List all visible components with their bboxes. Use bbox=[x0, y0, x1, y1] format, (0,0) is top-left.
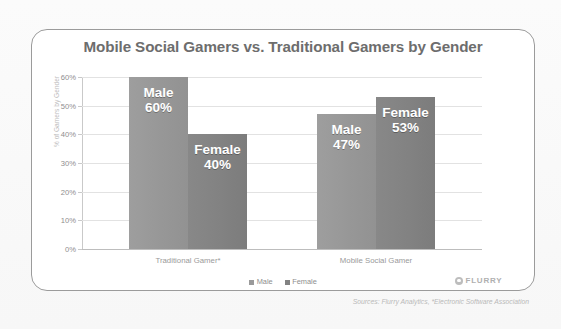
x-axis-category-label: Mobile Social Gamer bbox=[306, 256, 446, 265]
bar-female-1[interactable]: Female40% bbox=[188, 134, 247, 249]
bar-data-label: Female40% bbox=[188, 142, 247, 172]
y-axis-tick bbox=[78, 220, 82, 221]
bar-data-label: Male47% bbox=[317, 122, 376, 152]
y-axis-tick bbox=[78, 106, 82, 107]
flurry-circle-icon bbox=[455, 277, 463, 285]
bar-label-series: Female bbox=[188, 142, 247, 157]
y-axis-tick bbox=[78, 134, 82, 135]
sources-footnote: Sources: Flurry Analytics, *Electronic S… bbox=[0, 298, 529, 305]
bar-label-value: 40% bbox=[188, 157, 247, 172]
y-axis-tick-label: 30% bbox=[46, 159, 76, 168]
flurry-logo: FLURRY bbox=[455, 276, 502, 285]
y-axis-tick-label: 40% bbox=[46, 130, 76, 139]
plot-area: Male60%Female40%Male47%Female53% bbox=[82, 77, 482, 249]
legend-item-male[interactable]: Male bbox=[249, 277, 273, 286]
flurry-wordmark: FLURRY bbox=[466, 276, 503, 285]
bar-label-series: Female bbox=[376, 105, 435, 120]
legend-swatch-icon bbox=[249, 280, 254, 285]
y-axis-tick-labels: 60%50%40%30%20%10%0% bbox=[44, 77, 76, 249]
legend-item-label: Female bbox=[292, 277, 317, 286]
y-axis-tick-label: 60% bbox=[46, 73, 76, 82]
y-axis-tick-label: 20% bbox=[46, 187, 76, 196]
bar-label-value: 60% bbox=[129, 100, 188, 115]
bar-label-series: Male bbox=[129, 85, 188, 100]
bar-male-1[interactable]: Male60% bbox=[129, 77, 188, 249]
bar-label-value: 53% bbox=[376, 120, 435, 135]
x-axis-category-label: Traditional Gamer* bbox=[118, 256, 258, 265]
y-axis-tick-label: 10% bbox=[46, 216, 76, 225]
y-axis-tick bbox=[78, 163, 82, 164]
y-axis-tick-label: 0% bbox=[46, 245, 76, 254]
legend-item-label: Male bbox=[257, 277, 273, 286]
bar-male-2[interactable]: Male47% bbox=[317, 114, 376, 249]
y-axis-tick-label: 50% bbox=[46, 101, 76, 110]
y-axis-tick bbox=[78, 249, 82, 250]
y-axis-tick bbox=[78, 192, 82, 193]
bar-data-label: Female53% bbox=[376, 105, 435, 135]
bar-label-value: 47% bbox=[317, 137, 376, 152]
page-title: Mobile Social Gamers vs. Traditional Gam… bbox=[31, 38, 535, 55]
bar-data-label: Male60% bbox=[129, 85, 188, 115]
legend-swatch-icon bbox=[285, 280, 290, 285]
legend-item-female[interactable]: Female bbox=[285, 277, 317, 286]
bar-female-2[interactable]: Female53% bbox=[376, 97, 435, 249]
slide-canvas: Mobile Social Gamers vs. Traditional Gam… bbox=[0, 0, 561, 329]
y-axis-tick bbox=[78, 77, 82, 78]
bar-label-series: Male bbox=[317, 122, 376, 137]
x-axis-line bbox=[82, 249, 482, 250]
